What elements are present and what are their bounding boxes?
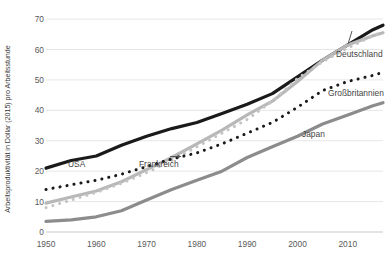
x-axis-tick-label: 1970 <box>137 239 156 249</box>
series-label-deutschland: Deutschland <box>336 49 383 59</box>
series-label-japan: Japan <box>302 129 325 139</box>
x-axis-tick-label: 1950 <box>37 239 56 249</box>
series-label-grossbritannien: Großbritannien <box>328 88 384 98</box>
series-label-usa: USA <box>68 159 85 169</box>
x-axis-tick-label: 1990 <box>238 239 257 249</box>
series-label-frankreich: Frankreich <box>139 159 179 169</box>
productivity-line-chart: Arbeitsproduktivität in Dollar (2015) pr… <box>0 0 392 258</box>
x-axis-tick-label: 1960 <box>87 239 106 249</box>
x-axis-ticks: 1950196019701980199020002010 <box>0 0 392 258</box>
x-axis-tick-label: 2000 <box>288 239 307 249</box>
x-axis-tick-label: 2010 <box>338 239 357 249</box>
x-axis-tick-label: 1980 <box>188 239 207 249</box>
